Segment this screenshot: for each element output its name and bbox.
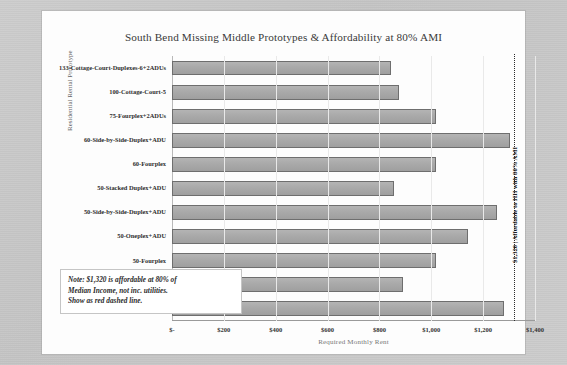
x-tick-label: $- <box>169 326 174 333</box>
bar-row: 50-Stacked Duplex+ADU <box>172 181 535 196</box>
grid-line <box>483 56 484 321</box>
x-tick-label: $200 <box>217 326 230 333</box>
x-tick-label: $800 <box>373 326 386 333</box>
chart-title: South Bend Missing Middle Prototypes & A… <box>42 31 525 43</box>
bar <box>172 205 497 220</box>
bar <box>172 181 394 196</box>
y-axis-title: Residential Rental Prototype <box>66 51 74 132</box>
category-label: 50-Side-by-Side-Duplex+ADU <box>84 209 166 215</box>
note-line-3: Show as red dashed line. <box>68 296 234 307</box>
category-label: 60-Side-by-Side-Duplex+ADU <box>84 137 166 143</box>
bar-row: 60-Fourplex <box>172 157 535 172</box>
bar-row: 75-Fourplex+2ADUs <box>172 109 535 124</box>
bar-row: 133-Cottage-Court-Duplexes-6+2ADUs <box>172 61 535 76</box>
grid-line <box>379 56 380 321</box>
bar <box>172 157 436 172</box>
x-tick-label: $600 <box>321 326 334 333</box>
bar-row: 60-Side-by-Side-Duplex+ADU <box>172 133 535 148</box>
bar <box>172 253 436 268</box>
category-label: 50-Stacked Duplex+ADU <box>97 185 166 191</box>
bar-row: 50-Fourplex <box>172 253 535 268</box>
category-label: 133-Cottage-Court-Duplexes-6+2ADUs <box>59 65 166 71</box>
threshold-label: $1,320 | Affordable to HH with 80% AMI <box>511 147 518 263</box>
x-axis-title: Required Monthly Rent <box>172 338 535 346</box>
bar <box>172 229 468 244</box>
bar <box>172 61 391 76</box>
note-line-2: Median Income, not inc. utilities. <box>68 286 234 297</box>
grid-line <box>535 56 536 321</box>
bar-row: 50-Oneplex+ADU <box>172 229 535 244</box>
bar-row: 50-Side-by-Side-Duplex+ADU <box>172 205 535 220</box>
bar <box>172 85 399 100</box>
grid-line <box>276 56 277 321</box>
x-tick-label: $1,400 <box>526 326 544 333</box>
bar <box>172 109 436 124</box>
grid-line <box>328 56 329 321</box>
bar-row: 100-Cottage-Court-5 <box>172 85 535 100</box>
chart-card: South Bend Missing Middle Prototypes & A… <box>42 11 525 354</box>
grid-line <box>431 56 432 321</box>
x-tick-label: $400 <box>269 326 282 333</box>
category-label: 60-Fourplex <box>133 161 166 167</box>
category-label: 75-Fourplex+2ADUs <box>109 113 166 119</box>
note-box: Note: $1,320 is affordable at 80% of Med… <box>60 269 242 314</box>
category-label: 50-Oneplex+ADU <box>117 233 166 239</box>
category-label: 50-Fourplex <box>133 258 166 264</box>
x-tick-label: $1,200 <box>474 326 492 333</box>
bar <box>172 133 510 148</box>
category-label: 100-Cottage-Court-5 <box>109 89 166 95</box>
x-tick-label: $1,000 <box>422 326 440 333</box>
note-line-1: Note: $1,320 is affordable at 80% of <box>68 275 234 286</box>
